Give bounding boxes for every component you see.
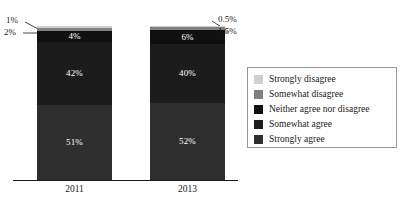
- bar-value-label: 6%: [181, 33, 193, 42]
- legend-swatch-icon: [254, 90, 263, 99]
- bar-2011: 4% 42% 51%: [37, 26, 112, 180]
- bar-value-label: 42%: [66, 69, 83, 78]
- bar-segment-neither-2011: 4%: [37, 31, 112, 42]
- callout-label-somewhat-disagree-2013: 1.5%: [218, 27, 237, 36]
- bar-segment-strongly-agree-2013: 52%: [150, 103, 225, 180]
- bar-segment-somewhat-agree-2011: 42%: [37, 42, 112, 105]
- bar-value-label: 40%: [179, 69, 196, 78]
- x-axis-line: [13, 180, 238, 181]
- bar-value-label: 52%: [179, 137, 196, 146]
- bar-segment-strongly-agree-2011: 51%: [37, 105, 112, 180]
- legend-swatch-icon: [254, 105, 263, 114]
- plot-area: 4% 42% 51% 6% 40% 52% 2011 2013: [0, 0, 245, 206]
- chart-legend: Strongly disagree Somewhat disagree Neit…: [247, 67, 397, 148]
- legend-item-label: Somewhat disagree: [269, 90, 343, 100]
- legend-swatch-icon: [254, 135, 263, 144]
- legend-item-label: Strongly disagree: [269, 75, 336, 85]
- bar-2013: 6% 40% 52%: [150, 26, 225, 180]
- callout-label-somewhat-disagree-2011: 2%: [4, 28, 16, 37]
- bar-segment-neither-2013: 6%: [150, 30, 225, 44]
- legend-item-neither-agree-nor-disagree: Neither agree nor disagree: [254, 102, 396, 117]
- bar-segment-somewhat-agree-2013: 40%: [150, 44, 225, 103]
- x-axis-tick-label-2011: 2011: [37, 184, 112, 194]
- legend-swatch-icon: [254, 75, 263, 84]
- legend-item-strongly-agree: Strongly agree: [254, 132, 396, 147]
- bar-value-label: 51%: [66, 138, 83, 147]
- bar-value-label: 4%: [68, 32, 80, 41]
- legend-item-somewhat-agree: Somewhat agree: [254, 117, 396, 132]
- legend-swatch-icon: [254, 120, 263, 129]
- legend-item-label: Neither agree nor disagree: [269, 105, 370, 115]
- callout-label-strongly-disagree-2011: 1%: [6, 16, 18, 25]
- legend-item-somewhat-disagree: Somewhat disagree: [254, 87, 396, 102]
- x-axis-tick-label-2013: 2013: [150, 184, 225, 194]
- chart-root: 4% 42% 51% 6% 40% 52% 2011 2013: [0, 0, 404, 206]
- legend-item-strongly-disagree: Strongly disagree: [254, 72, 396, 87]
- callout-label-strongly-disagree-2013: 0.5%: [218, 15, 237, 24]
- legend-item-label: Strongly agree: [269, 135, 325, 145]
- legend-item-label: Somewhat agree: [269, 120, 332, 130]
